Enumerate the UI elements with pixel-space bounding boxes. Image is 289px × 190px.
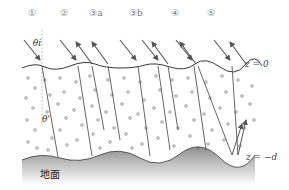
reflected-rays — [232, 120, 246, 155]
top-boundary-label: z = 0 — [245, 59, 269, 69]
path-label-3b: ③b — [128, 8, 144, 18]
refracted-angle-label: θ' — [38, 114, 54, 124]
incident-angle-label: θi — [29, 38, 45, 48]
incident-rays — [24, 40, 230, 60]
path-label-5: ⑤ — [203, 8, 219, 18]
scattering-particles — [25, 75, 256, 152]
path-label-4: ④ — [167, 8, 183, 18]
path-label-1: ① — [24, 8, 40, 18]
refracted-rays — [42, 66, 238, 157]
path-label-3a: ③a — [88, 8, 104, 18]
top-surface-line — [22, 59, 262, 72]
ground-label: 地面 — [40, 166, 60, 181]
path-label-2: ② — [56, 8, 72, 18]
bottom-boundary-label: z = −d — [246, 152, 277, 162]
emerging-rays — [76, 42, 246, 64]
